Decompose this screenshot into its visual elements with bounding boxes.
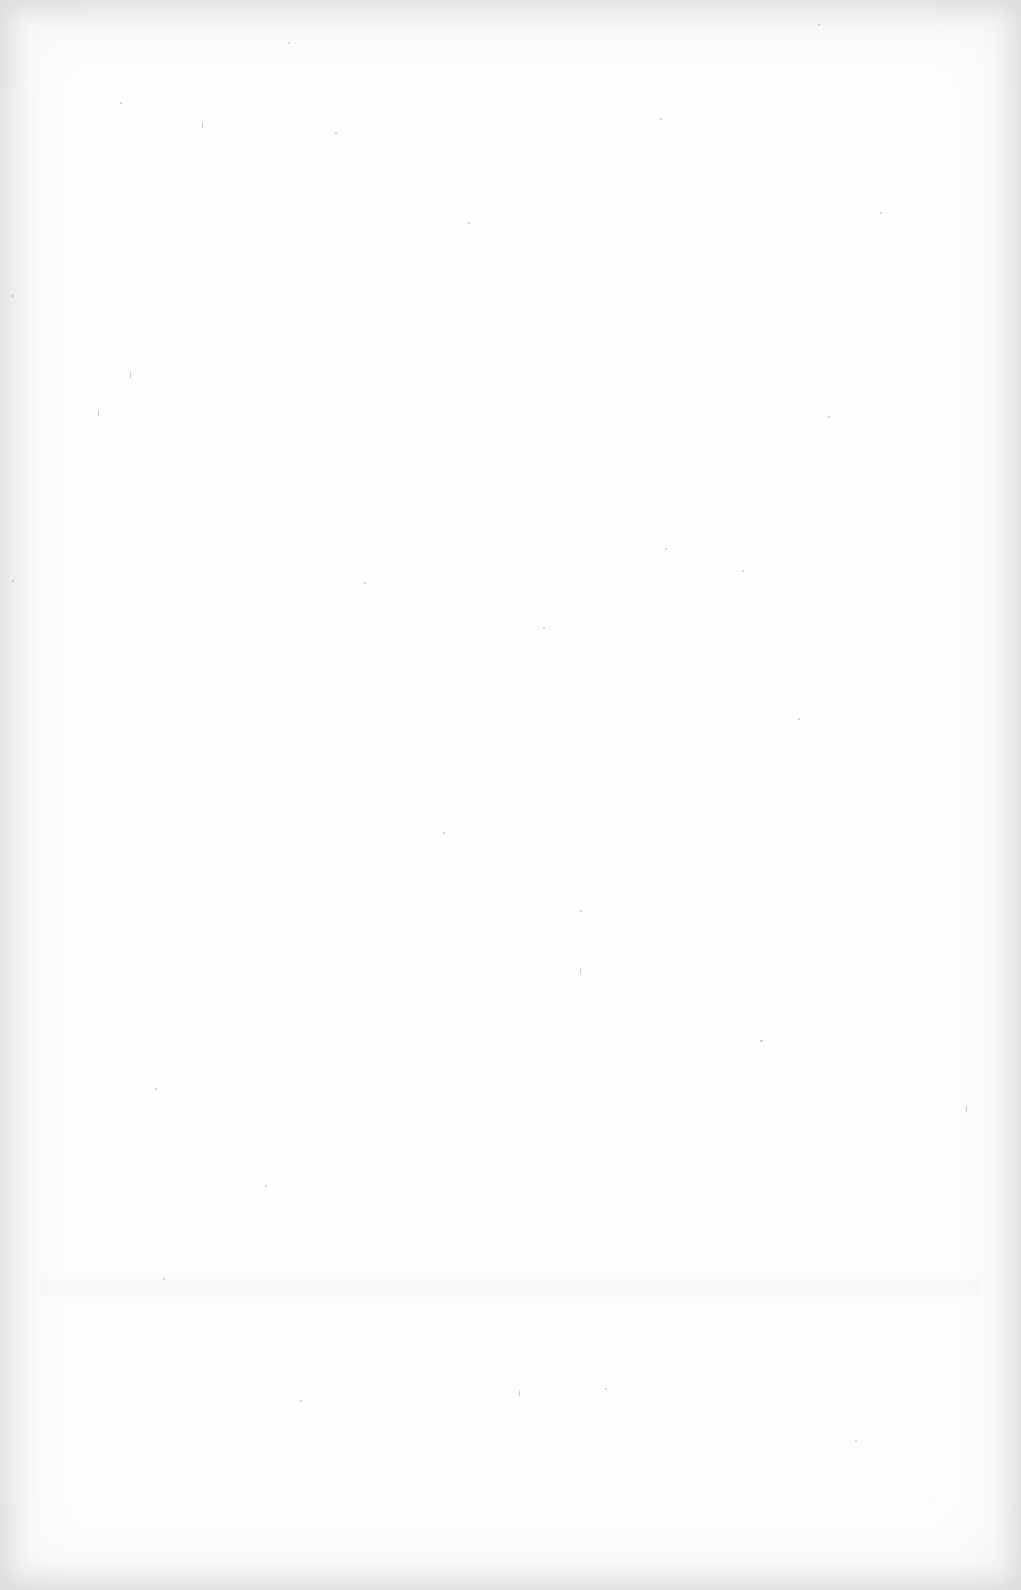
paper-speck [580, 968, 581, 974]
paper-speck [12, 580, 14, 582]
paper-speck [580, 910, 582, 912]
paper-speck [98, 410, 99, 416]
paper-speck [155, 1088, 157, 1090]
paper-speck [202, 122, 203, 128]
paper-speck [742, 570, 744, 572]
paper-speck [855, 1440, 857, 1442]
paper-speck [966, 1106, 967, 1112]
paper-speck [665, 548, 667, 550]
paper-speck [300, 1400, 302, 1402]
paper-speck [468, 222, 470, 224]
paper-speck [130, 372, 131, 378]
paper-speck [120, 102, 122, 104]
faint-bleed-through [40, 1272, 981, 1302]
paper-speck [543, 627, 545, 629]
paper-speck [798, 718, 800, 720]
paper-speck [519, 1390, 520, 1396]
paper-speck [163, 1278, 165, 1280]
paper-speck [443, 832, 445, 834]
paper-speck [605, 1388, 607, 1390]
paper-speck [880, 212, 882, 214]
paper-speck [335, 132, 337, 134]
paper-speck [818, 24, 820, 26]
paper-speck [12, 295, 14, 297]
paper-speck [828, 416, 830, 418]
paper-speck [364, 582, 366, 584]
paper-speck [265, 1185, 267, 1187]
paper-speck [288, 42, 290, 44]
paper-speck [660, 118, 662, 120]
blank-scanned-page [0, 0, 1021, 1590]
paper-speck [760, 1040, 763, 1042]
